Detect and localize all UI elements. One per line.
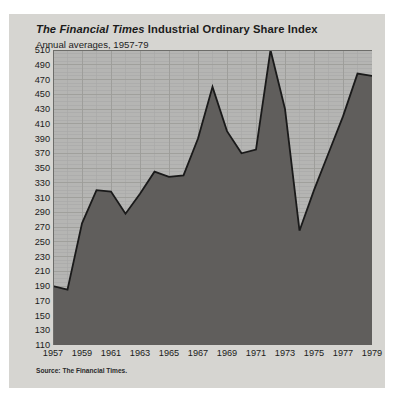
x-tick-label: 1969 (217, 348, 237, 358)
y-tick-label: 290 (10, 207, 50, 217)
x-axis-labels: 1957195919611963196519671969197119731975… (53, 348, 372, 364)
plot-area (53, 50, 372, 345)
x-tick-label: 1965 (159, 348, 179, 358)
y-tick-label: 250 (10, 237, 50, 247)
y-tick-label: 450 (10, 89, 50, 99)
x-tick-label: 1975 (304, 348, 324, 358)
y-tick-label: 490 (10, 60, 50, 70)
y-tick-label: 190 (10, 281, 50, 291)
area-chart-svg (53, 50, 372, 345)
y-tick-label: 370 (10, 148, 50, 158)
chart-title-emphasis: The Financial Times (36, 23, 145, 35)
chart-figure: The Financial Times Industrial Ordinary … (9, 14, 385, 388)
x-tick-label: 1973 (275, 348, 295, 358)
x-tick-label: 1961 (101, 348, 121, 358)
y-tick-label: 430 (10, 104, 50, 114)
y-tick-label: 130 (10, 325, 50, 335)
y-tick-label: 410 (10, 119, 50, 129)
y-tick-label: 510 (10, 45, 50, 55)
chart-source: Source: The Financial Times. (36, 367, 127, 374)
x-tick-label: 1979 (362, 348, 382, 358)
y-tick-label: 350 (10, 163, 50, 173)
y-tick-label: 470 (10, 75, 50, 85)
y-tick-label: 310 (10, 193, 50, 203)
x-tick-label: 1967 (188, 348, 208, 358)
x-tick-label: 1971 (246, 348, 266, 358)
x-tick-label: 1959 (72, 348, 92, 358)
x-tick-label: 1963 (130, 348, 150, 358)
y-tick-label: 390 (10, 134, 50, 144)
chart-subtitle: Annual averages, 1957-79 (36, 39, 149, 50)
chart-title-rest: Industrial Ordinary Share Index (145, 23, 318, 35)
source-prefix: Source: The Financial Times. (36, 367, 127, 374)
y-tick-label: 170 (10, 296, 50, 306)
x-tick-label: 1957 (43, 348, 63, 358)
y-axis-labels: 1101301501701902102302502702903103303503… (9, 50, 50, 345)
y-tick-label: 150 (10, 311, 50, 321)
y-tick-label: 230 (10, 252, 50, 262)
y-tick-label: 330 (10, 178, 50, 188)
x-tick-label: 1977 (333, 348, 353, 358)
y-tick-label: 210 (10, 266, 50, 276)
chart-title: The Financial Times Industrial Ordinary … (36, 23, 318, 35)
y-tick-label: 270 (10, 222, 50, 232)
